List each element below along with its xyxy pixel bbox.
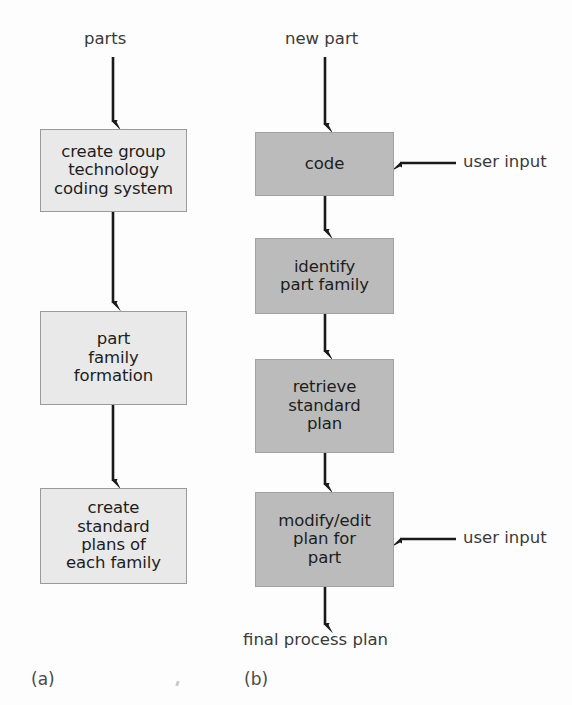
user-input-label-1: user input [463,153,547,171]
panel-b-output-label: final process plan [243,631,388,649]
panel-a-step-1-label: create grouptechnologycoding system [50,143,177,198]
panel-b-step-2: identifypart family [255,238,394,314]
scan-speck [175,681,179,687]
panel-a-caption: (a) [31,671,55,688]
panel-a-step-1: create grouptechnologycoding system [40,129,187,212]
panel-b-step-4-label: modify/editplan forpart [274,512,375,567]
panel-b-step-2-label: identifypart family [276,258,373,295]
panel-b-input-label: new part [285,30,358,48]
panel-a-step-2: partfamilyformation [40,311,187,405]
panel-a-step-2-label: partfamilyformation [70,330,157,385]
panel-b-step-3: retrievestandardplan [255,359,394,453]
panel-a-step-3-label: createstandardplans ofeach family [62,499,165,573]
panel-b-step-1-label: code [301,155,348,173]
panel-a-input-label: parts [84,30,126,48]
panel-b-step-1: code [255,132,394,196]
panel-b-step-4: modify/editplan forpart [255,492,394,587]
flowchart-figure: parts create grouptechnologycoding syste… [0,0,572,705]
panel-b-caption: (b) [244,671,268,688]
panel-b-step-3-label: retrievestandardplan [284,378,364,433]
panel-a-step-3: createstandardplans ofeach family [40,488,187,584]
user-input-label-2: user input [463,529,547,547]
